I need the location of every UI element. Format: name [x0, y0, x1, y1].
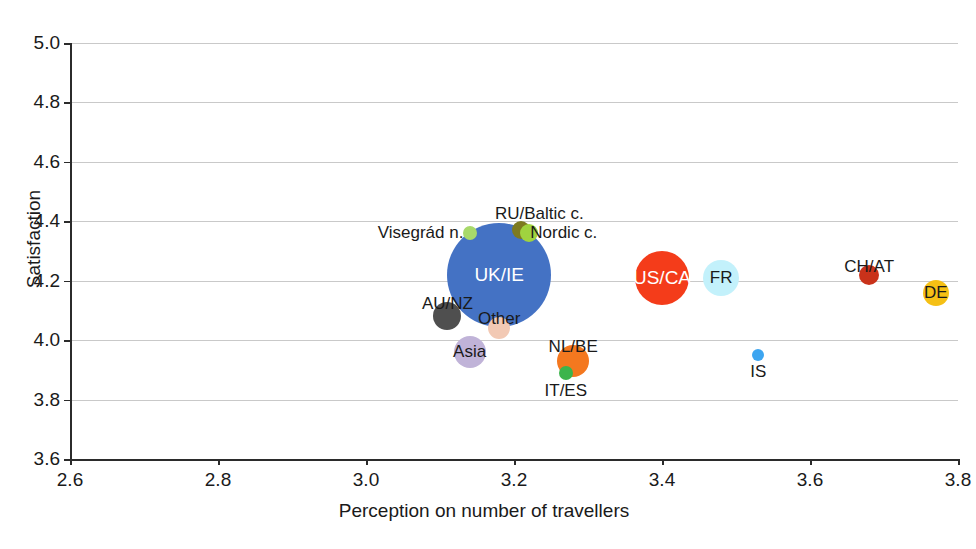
bubble-label-de: DE: [924, 283, 948, 303]
gridline: [70, 340, 958, 341]
x-tick-label: 2.8: [188, 469, 248, 491]
bubble-visegr-d-n[interactable]: [463, 226, 477, 240]
x-axis-title: Perception on number of travellers: [0, 500, 968, 522]
bubble-label-it-es: IT/ES: [545, 381, 588, 401]
x-tick-mark: [958, 459, 960, 465]
bubble-label-au-nz: AU/NZ: [422, 294, 473, 314]
bubble-label-nl-be: NL/BE: [549, 337, 598, 357]
y-tick-label: 3.6: [16, 448, 60, 470]
y-tick-label: 4.6: [16, 151, 60, 173]
bubble-label-ch-at: CH/AT: [844, 257, 894, 277]
bubble-label-uk-ie: UK/IE: [474, 264, 524, 286]
bubble-it-es[interactable]: [559, 366, 573, 380]
y-tick-label: 3.8: [16, 389, 60, 411]
bubble-label-visegr-d-n: Visegrád n.: [378, 223, 464, 243]
x-tick-label: 3.4: [632, 469, 692, 491]
bubble-label-fr: FR: [710, 268, 733, 288]
bubble-label-asia: Asia: [453, 342, 486, 362]
x-tick-label: 3.2: [484, 469, 544, 491]
bubble-is[interactable]: [752, 349, 764, 361]
x-tick-label: 3.8: [928, 469, 976, 491]
bubble-label-other: Other: [478, 309, 521, 329]
y-tick-label: 4.4: [16, 210, 60, 232]
bubble-label-nordic-c: Nordic c.: [530, 223, 597, 243]
x-tick-label: 3.6: [780, 469, 840, 491]
gridline: [70, 400, 958, 401]
bubble-label-is: IS: [750, 362, 766, 382]
x-tick-label: 2.6: [40, 469, 100, 491]
y-tick-label: 4.2: [16, 270, 60, 292]
bubble-label-us-ca: US/CA: [633, 267, 691, 289]
x-tick-label: 3.0: [336, 469, 396, 491]
y-tick-label: 5.0: [16, 32, 60, 54]
gridline: [70, 43, 958, 44]
bubble-label-ru-baltic-c: RU/Baltic c.: [495, 204, 584, 224]
x-axis-line: [70, 459, 958, 461]
gridline: [70, 102, 958, 103]
gridline: [70, 162, 958, 163]
y-axis-line: [70, 43, 72, 459]
y-tick-label: 4.0: [16, 329, 60, 351]
y-tick-label: 4.8: [16, 91, 60, 113]
